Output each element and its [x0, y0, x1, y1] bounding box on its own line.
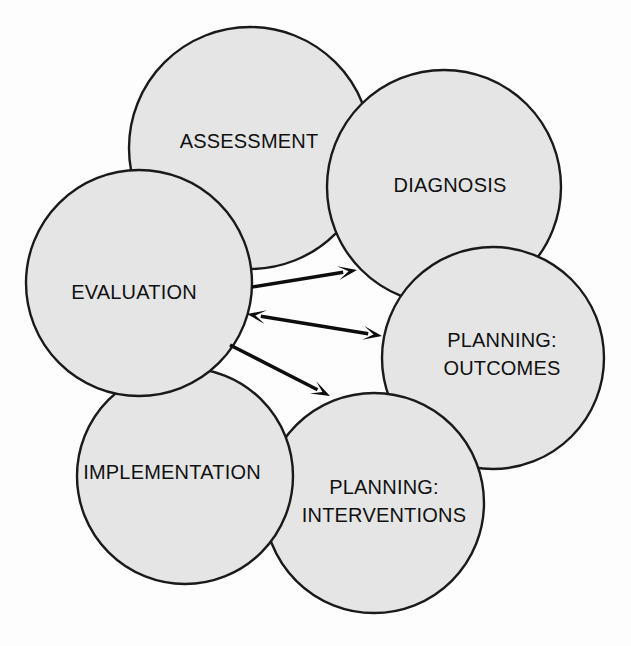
- circle-outline-planning-interventions: [264, 393, 484, 613]
- label-line: PLANNING:: [329, 476, 439, 498]
- label-line: PLANNING:: [447, 329, 557, 351]
- label-line: INTERVENTIONS: [302, 504, 466, 526]
- arrow-shaft: [230, 345, 318, 390]
- arrow-evaluation-to-planning-outcomes: [247, 310, 382, 340]
- label-line: OUTCOMES: [443, 357, 560, 379]
- arrow-evaluation-to-diagnosis: [252, 266, 357, 287]
- label-evaluation: EVALUATION: [71, 281, 197, 303]
- nursing-process-diagram: ASSESSMENTDIAGNOSISPLANNING:OUTCOMESPLAN…: [0, 0, 631, 646]
- label-line: DIAGNOSIS: [394, 174, 507, 196]
- label-line: EVALUATION: [71, 281, 197, 303]
- arrow-shaft: [252, 272, 343, 287]
- diagram-canvas: ASSESSMENTDIAGNOSISPLANNING:OUTCOMESPLAN…: [0, 0, 631, 646]
- label-diagnosis: DIAGNOSIS: [394, 174, 507, 196]
- label-implementation: IMPLEMENTATION: [83, 461, 261, 483]
- arrow-shaft: [261, 316, 368, 333]
- label-line: ASSESSMENT: [180, 130, 319, 152]
- arrows-layer: [230, 266, 382, 396]
- label-line: IMPLEMENTATION: [83, 461, 261, 483]
- label-assessment: ASSESSMENT: [180, 130, 319, 152]
